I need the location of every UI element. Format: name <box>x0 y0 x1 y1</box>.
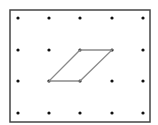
grid-dot <box>47 48 50 51</box>
grid-dot <box>16 48 19 51</box>
geoboard-diagram <box>0 0 158 125</box>
grid-dot <box>110 111 113 114</box>
dot-grid <box>16 16 144 114</box>
grid-dot <box>16 111 19 114</box>
grid-dot <box>141 79 144 82</box>
grid-dot <box>110 16 113 19</box>
grid-dot <box>141 48 144 51</box>
parallelogram-shape <box>49 50 112 81</box>
grid-dot <box>47 16 50 19</box>
grid-dot <box>16 16 19 19</box>
grid-dot <box>141 16 144 19</box>
grid-dot <box>78 111 81 114</box>
grid-dot <box>16 79 19 82</box>
grid-dot <box>110 79 113 82</box>
grid-dot <box>47 111 50 114</box>
grid-dot <box>141 111 144 114</box>
grid-dot <box>78 16 81 19</box>
board-frame <box>10 10 150 122</box>
